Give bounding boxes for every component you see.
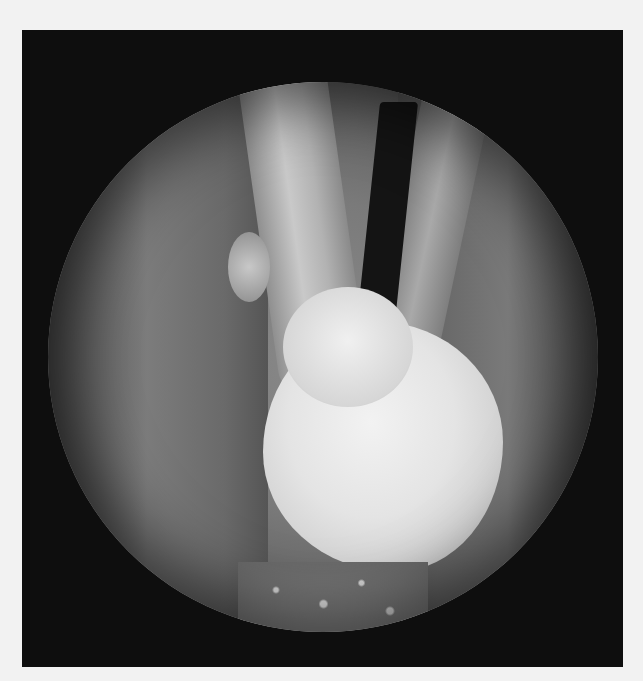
image-frame [22,30,623,667]
circular-scope-view [48,82,598,632]
scope-vignette [48,82,598,632]
